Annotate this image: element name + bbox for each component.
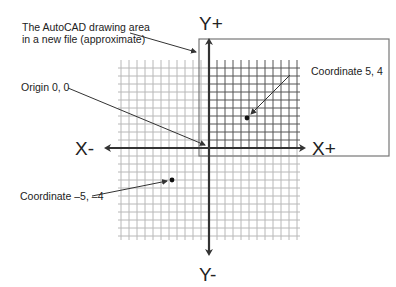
point-5-4 — [245, 116, 250, 121]
coord-5-4-label: Coordinate 5, 4 — [311, 65, 383, 77]
drawing-area-rect — [199, 39, 389, 156]
coord-neg-label: Coordinate –5, –4 — [20, 190, 104, 202]
grid-dark — [209, 60, 300, 148]
y-negative-label: Y- — [199, 264, 216, 285]
coordinate-diagram: The AutoCAD drawing area in a new file (… — [0, 0, 396, 287]
drawing-area-label-line1: The AutoCAD drawing area — [22, 21, 150, 33]
x-positive-label: X+ — [312, 138, 336, 159]
point-neg5-neg4 — [170, 178, 175, 183]
drawing-area-label-line2: in a new file (approximate) — [22, 33, 145, 45]
origin-label: Origin 0, 0 — [21, 81, 70, 93]
x-negative-label: X- — [75, 138, 94, 159]
y-positive-label: Y+ — [199, 13, 223, 34]
